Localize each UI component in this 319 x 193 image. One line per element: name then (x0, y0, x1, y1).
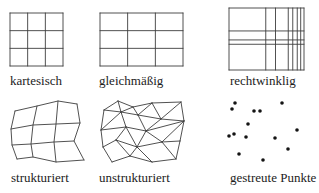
caption-unstructured-mesh: unstrukturiert (99, 171, 170, 185)
rechtwinklig-graphic (229, 8, 304, 70)
caption-scattered-points: gestreute Punkte (230, 171, 316, 185)
gleichmaessig-graphic (100, 13, 183, 66)
caption-structured-mesh: strukturiert (11, 171, 69, 185)
caption-cartesian-grid: kartesisch (10, 74, 62, 88)
gestreute_punkte-graphic (227, 101, 299, 162)
grid-types-figure: kartesisch gleichmäßig rechtwinklig stru… (0, 0, 319, 193)
figure-canvas (0, 0, 319, 193)
caption-rectilinear-grid: rechtwinklig (230, 74, 296, 88)
strukturiert-graphic (11, 101, 84, 162)
caption-uniform-grid: gleichmäßig (99, 74, 163, 88)
unstrukturiert-graphic (101, 101, 184, 162)
kartesisch-graphic (10, 13, 63, 66)
